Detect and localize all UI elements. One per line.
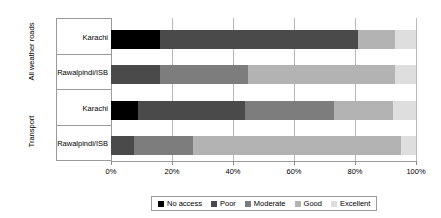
category-label-karachi-roads: Karachi bbox=[28, 33, 108, 42]
legend-item-no-access[interactable]: No access bbox=[158, 199, 202, 208]
stacked-bar-chart: Access to services All weather roads Tra… bbox=[0, 0, 441, 218]
bar-segment-excellent bbox=[401, 136, 416, 155]
tick-100 bbox=[416, 161, 417, 165]
bar-segment-moderate bbox=[134, 136, 193, 155]
bar-segment-good bbox=[248, 65, 394, 84]
legend-label: Excellent bbox=[340, 199, 370, 208]
legend-swatch-icon bbox=[211, 201, 217, 207]
bar-segment-poor bbox=[111, 65, 160, 84]
x-axis-line bbox=[111, 161, 416, 162]
legend-item-excellent[interactable]: Excellent bbox=[331, 199, 370, 208]
tick-60 bbox=[294, 161, 295, 165]
legend-swatch-icon bbox=[331, 201, 337, 207]
category-label-column: Karachi Rawalpindi/ISB Karachi Rawalpind… bbox=[28, 18, 108, 161]
xtick-label-80: 80% bbox=[335, 167, 375, 176]
legend-item-good[interactable]: Good bbox=[295, 199, 322, 208]
bar-segment-poor bbox=[160, 30, 358, 49]
xtick-label-60: 60% bbox=[274, 167, 314, 176]
legend-label: Moderate bbox=[254, 199, 286, 208]
bar-segment-poor bbox=[138, 101, 245, 120]
bar-2 bbox=[111, 65, 416, 84]
legend-label: No access bbox=[167, 199, 202, 208]
chart-legend: No accessPoorModerateGoodExcellent bbox=[151, 196, 377, 211]
bar-segment-moderate bbox=[245, 101, 333, 120]
bar-3 bbox=[111, 101, 416, 120]
category-label-rawalpindi-roads: Rawalpindi/ISB bbox=[28, 68, 108, 77]
bar-segment-no-access bbox=[111, 101, 138, 120]
category-label-karachi-transport: Karachi bbox=[28, 104, 108, 113]
tick-20 bbox=[172, 161, 173, 165]
legend-swatch-icon bbox=[245, 201, 251, 207]
legend-label: Poor bbox=[220, 199, 236, 208]
bar-1 bbox=[111, 30, 416, 49]
tick-80 bbox=[355, 161, 356, 165]
tick-40 bbox=[233, 161, 234, 165]
category-label-rawalpindi-transport: Rawalpindi/ISB bbox=[28, 139, 108, 148]
bar-segment-good bbox=[193, 136, 400, 155]
tick-0 bbox=[111, 161, 112, 165]
legend-label: Good bbox=[304, 199, 322, 208]
bar-4 bbox=[111, 136, 416, 155]
bar-segment-poor bbox=[111, 136, 134, 155]
bar-segment-good bbox=[334, 101, 393, 120]
legend-swatch-icon bbox=[295, 201, 301, 207]
gridline-100 bbox=[416, 18, 417, 161]
legend-item-poor[interactable]: Poor bbox=[211, 199, 236, 208]
xtick-label-0: 0% bbox=[91, 167, 131, 176]
xtick-label-20: 20% bbox=[152, 167, 192, 176]
xtick-label-100: 100% bbox=[396, 167, 436, 176]
bar-segment-excellent bbox=[393, 101, 416, 120]
bar-segment-excellent bbox=[395, 65, 416, 84]
legend-swatch-icon bbox=[158, 201, 164, 207]
bar-segment-good bbox=[358, 30, 395, 49]
bar-segment-excellent bbox=[395, 30, 416, 49]
xtick-label-40: 40% bbox=[213, 167, 253, 176]
legend-item-moderate[interactable]: Moderate bbox=[245, 199, 286, 208]
bar-segment-no-access bbox=[111, 30, 160, 49]
bar-segment-moderate bbox=[160, 65, 248, 84]
